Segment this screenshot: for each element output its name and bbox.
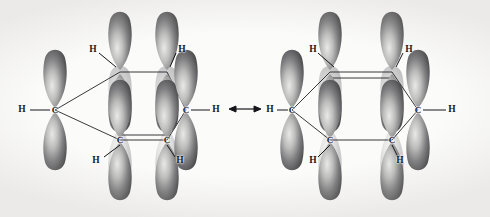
atom-label-h: H bbox=[176, 156, 184, 166]
atom-label-c: C bbox=[183, 106, 190, 115]
atom-label-h: H bbox=[178, 45, 186, 55]
atom-label-h: H bbox=[18, 105, 26, 115]
atom-label-h: H bbox=[309, 156, 317, 166]
atom-label-c: C bbox=[289, 106, 296, 115]
atom-label-c: C bbox=[389, 136, 396, 145]
atom-label-h: H bbox=[89, 45, 97, 55]
atom-label-c: C bbox=[52, 106, 59, 115]
resonance-arrow bbox=[229, 106, 261, 112]
atom-label-c: C bbox=[117, 136, 124, 145]
atom-label-h: H bbox=[405, 45, 413, 55]
atom-label-h: H bbox=[266, 105, 274, 115]
atom-label-h: H bbox=[309, 45, 317, 55]
atom-label-h: H bbox=[212, 105, 220, 115]
atom-label-c: C bbox=[327, 136, 334, 145]
figure-canvas: H C H H C C H H C H H C H H C C H H C H bbox=[0, 0, 490, 217]
atom-label-h: H bbox=[92, 156, 100, 166]
atom-label-h: H bbox=[396, 156, 404, 166]
atom-label-h: H bbox=[448, 105, 456, 115]
atom-label-c: C bbox=[415, 106, 422, 115]
atom-label-c: C bbox=[164, 136, 171, 145]
